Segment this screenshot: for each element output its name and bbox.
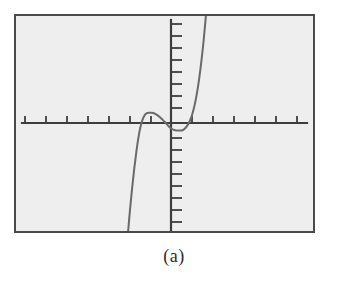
plot-frame [14,14,315,233]
graph-canvas [16,16,313,231]
figure-caption: (a) [0,246,348,267]
figure-root: (a) [0,0,348,293]
